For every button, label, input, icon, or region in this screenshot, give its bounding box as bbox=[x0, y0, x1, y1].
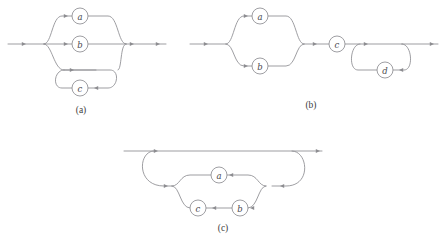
edge-b-join-b bbox=[268, 44, 304, 66]
edge-fork-to-b-b bbox=[226, 44, 252, 66]
panel-b-caption: (b) bbox=[305, 100, 316, 111]
edge-fork-to-c-loop bbox=[44, 44, 96, 70]
arrow-into-b bbox=[64, 42, 68, 46]
edge-loop-left-to-d bbox=[351, 44, 377, 70]
edge-a-to-join bbox=[88, 16, 126, 44]
arrow-into-d-loop bbox=[364, 42, 368, 46]
edge-left-outer-loop-c bbox=[142, 151, 172, 186]
arrow-into-d bbox=[399, 68, 403, 72]
node-label: c bbox=[196, 204, 201, 214]
edge-fork-to-a bbox=[44, 16, 72, 44]
arrow-top-exit-c bbox=[316, 149, 320, 153]
node-label: d bbox=[382, 66, 388, 76]
arrow-right-join-c bbox=[280, 184, 284, 188]
node-label: c bbox=[335, 40, 340, 50]
arrow-left-fork-c bbox=[164, 184, 168, 188]
arrow-exit-b bbox=[430, 42, 434, 46]
node-a-panel-b: a bbox=[252, 8, 268, 24]
arrow-entry-a bbox=[22, 42, 26, 46]
node-d-panel-b: d bbox=[377, 62, 393, 78]
edge-left-fork-down-c bbox=[172, 186, 190, 208]
edge-loop-d-return bbox=[393, 44, 411, 70]
arrow-into-a-b bbox=[244, 14, 248, 18]
edge-fork-to-a-b bbox=[226, 16, 252, 44]
edge-left-fork-up-c bbox=[172, 175, 211, 186]
node-label: b bbox=[237, 204, 242, 214]
transition-diagram-figure: a b c (a) bbox=[0, 0, 446, 244]
panel-a-caption: (a) bbox=[76, 105, 87, 116]
node-a-panel-c: a bbox=[211, 167, 227, 183]
panel-b: a b c d (b) bbox=[190, 8, 438, 111]
edge-c-loop-to-join bbox=[118, 44, 126, 70]
arrow-into-c-c bbox=[212, 206, 216, 210]
node-label: b bbox=[257, 62, 262, 72]
node-label: a bbox=[257, 12, 262, 22]
edge-loop-c-return bbox=[64, 70, 117, 88]
node-label: a bbox=[77, 12, 82, 22]
node-a-panel-a: a bbox=[72, 8, 88, 24]
arrow-into-c bbox=[94, 86, 98, 90]
panel-c-caption: (c) bbox=[218, 223, 229, 234]
edge-loop-left-to-c bbox=[55, 70, 72, 88]
node-label: a bbox=[216, 171, 221, 181]
node-b-panel-a: b bbox=[72, 36, 88, 52]
node-b-panel-b: b bbox=[252, 58, 268, 74]
node-c-panel-c: c bbox=[190, 200, 206, 216]
arrow-entry-b bbox=[204, 42, 208, 46]
node-c-panel-a: c bbox=[72, 80, 88, 96]
node-c-panel-b: c bbox=[329, 36, 345, 52]
edge-right-b-up-c bbox=[248, 186, 266, 208]
arrow-top-entry-c bbox=[154, 149, 158, 153]
panel-a: a b c (a) bbox=[8, 8, 166, 116]
node-label: c bbox=[78, 84, 83, 94]
arrow-exit-a bbox=[156, 42, 160, 46]
node-b-panel-c: b bbox=[232, 200, 248, 216]
node-label: b bbox=[77, 40, 82, 50]
arrow-into-a-c bbox=[229, 173, 233, 177]
arrow-into-b-b bbox=[244, 64, 248, 68]
edge-a-join-b bbox=[268, 16, 304, 44]
arrow-into-c-b bbox=[313, 42, 317, 46]
arrow-into-a bbox=[64, 14, 68, 18]
panel-c: a b c (c) bbox=[124, 149, 322, 234]
edge-right-outer-loop-c bbox=[272, 151, 305, 186]
